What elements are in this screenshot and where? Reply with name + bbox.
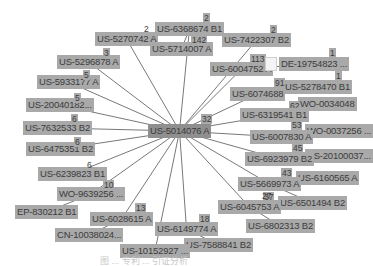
patent-node[interactable]: US-6045753 A (218, 200, 281, 214)
citation-count-badge: 1 (329, 48, 336, 58)
citation-count-badge: 53 (291, 120, 302, 130)
citation-edge (180, 131, 187, 229)
citation-count-badge: 13 (135, 203, 146, 213)
patent-node[interactable]: EP-830212 B1 (15, 205, 78, 219)
patent-node[interactable]: US-20040182... (26, 98, 94, 112)
patent-node[interactable]: US-6475351 B2 (26, 142, 95, 156)
patent-node[interactable]: US-5278470 B1 (283, 80, 352, 94)
figure-caption: 图 ... 专利 ... 引证分析 (100, 256, 320, 266)
citation-count-badge: 27 (261, 191, 272, 201)
patent-node[interactable]: US-5296878 A (57, 55, 120, 69)
patent-node[interactable]: US-6923979 B2 (245, 152, 314, 166)
patent-node[interactable]: US-6028615 A (90, 212, 153, 226)
citation-count-badge: 2 (143, 24, 150, 34)
patent-node[interactable]: US-7422307 B2 (222, 33, 291, 47)
patent-node[interactable]: US-6368674 B1 (155, 22, 224, 36)
citation-count-badge: 18 (199, 214, 210, 224)
document-thumbnail-icon (265, 57, 277, 71)
citation-count-badge: 6 (86, 160, 93, 170)
citation-count-badge: 5 (74, 93, 81, 103)
citation-count-badge: 113 (250, 54, 266, 64)
citation-count-badge: 2 (270, 25, 277, 35)
patent-node[interactable]: DE-19754823 ... (279, 57, 349, 71)
citation-count-badge: 142 (191, 35, 207, 45)
patent-node[interactable]: US-6007830 A (250, 130, 313, 144)
patent-node[interactable]: US-6160565 A (296, 171, 359, 185)
patent-node[interactable]: US-7632533 B2 (23, 121, 92, 135)
citation-count-badge: 10 (103, 180, 114, 190)
patent-node[interactable]: US-6802313 B2 (246, 219, 315, 233)
patent-node[interactable]: US-5669973 A (238, 177, 301, 191)
citation-count-badge: 2 (203, 13, 210, 23)
patent-node[interactable]: US-6004752 A (210, 62, 273, 76)
patent-node[interactable]: US-6074688 (230, 87, 285, 101)
patent-node[interactable]: US-6149774 A (155, 222, 218, 236)
citation-count-badge: 3 (103, 48, 110, 58)
patent-node[interactable]: WO-9639256 ... (57, 187, 125, 201)
patent-node[interactable]: WO-0037256 ... (305, 124, 373, 138)
citation-count-badge: 1 (335, 71, 342, 81)
citation-count-badge: 6 (74, 137, 81, 147)
patent-node[interactable]: US-5270742 A (95, 32, 158, 46)
patent-node[interactable]: US-6239823 B1 (38, 167, 107, 181)
patent-node[interactable]: US-6501494 B2 (278, 196, 347, 210)
patent-node[interactable]: US-20100037... (305, 149, 373, 163)
patent-node[interactable]: US-5933177 A (37, 75, 100, 89)
patent-node[interactable]: CN-10038024... (55, 228, 123, 242)
citation-edge (180, 131, 250, 207)
citation-count-badge: 91 (274, 78, 285, 88)
citation-count-badge: 5 (83, 70, 90, 80)
center-patent-node[interactable]: US-5014076 A (148, 124, 211, 138)
patent-node[interactable]: US-7588841 B2 (184, 238, 253, 252)
citation-count-badge: 32 (201, 114, 212, 124)
citation-count-badge: 6 (71, 114, 78, 124)
